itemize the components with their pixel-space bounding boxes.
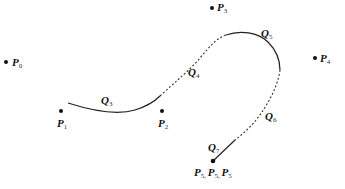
label-q4: Q4 (188, 66, 200, 80)
control-point-p2 (160, 109, 164, 113)
control-point-p3 (210, 6, 214, 10)
label-p4: P4 (320, 52, 331, 66)
control-point-p1 (59, 109, 63, 113)
label-q3: Q3 (101, 94, 113, 108)
segment-q3 (68, 96, 160, 112)
label-q6: Q6 (265, 110, 277, 124)
control-point-p5-triple (211, 159, 216, 164)
label-q7: Q7 (208, 141, 220, 155)
control-point-p0 (4, 60, 8, 64)
segment-q6 (235, 70, 280, 140)
label-p2: P2 (158, 117, 169, 131)
label-p3: P3 (217, 1, 228, 15)
label-p0: P0 (12, 56, 23, 70)
label-p5-triple: P5, P5, P5 (194, 166, 232, 180)
label-p1: P1 (57, 117, 68, 131)
control-point-p4 (313, 56, 317, 60)
spline-diagram: P0 P1 P2 P3 P4 P5, P5, P5 Q3 Q4 Q5 Q6 Q7 (0, 0, 345, 189)
label-q5: Q5 (261, 27, 273, 41)
